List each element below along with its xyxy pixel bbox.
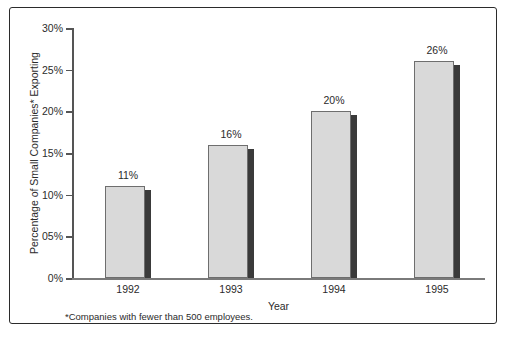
y-tick-label: 05% — [42, 230, 63, 242]
chart-footnote: *Companies with fewer than 500 employees… — [65, 311, 253, 322]
bar-group: 16% — [208, 28, 254, 278]
bar-shadow — [454, 65, 460, 278]
bar-shadow — [351, 115, 357, 278]
bar-shadow — [145, 190, 151, 278]
y-tick-mark — [66, 195, 72, 197]
bar-value-label: 26% — [414, 44, 460, 56]
bar-value-label: 16% — [208, 128, 254, 140]
y-tick-label: 10% — [42, 189, 63, 201]
y-tick-label: 25% — [42, 64, 63, 76]
bar — [208, 145, 248, 278]
y-tick-mark — [66, 111, 72, 113]
y-tick-label: 15% — [42, 147, 63, 159]
bar-value-label: 20% — [311, 94, 357, 106]
x-tick-label: 1993 — [208, 283, 254, 295]
y-tick-mark — [66, 153, 72, 155]
bar-value-label: 11% — [105, 169, 151, 181]
bar-group: 11% — [105, 28, 151, 278]
y-tick-label: 30% — [42, 22, 63, 34]
x-tick-label: 1994 — [311, 283, 357, 295]
y-tick-mark — [66, 236, 72, 238]
bar-group: 20% — [311, 28, 357, 278]
y-tick-mark — [66, 70, 72, 72]
bar-group: 26% — [414, 28, 460, 278]
chart-figure: 30%25%20%15%10%05%0% 11%199216%199320%19… — [9, 7, 497, 324]
bar — [105, 186, 145, 278]
x-axis-line — [72, 278, 485, 280]
y-tick-mark — [66, 28, 72, 30]
bar-shadow — [248, 149, 254, 278]
y-axis-line — [72, 28, 74, 278]
y-tick-label: 0% — [48, 272, 63, 284]
x-tick-label: 1992 — [105, 283, 151, 295]
y-axis-title: Percentage of Small Companies* Exporting — [28, 52, 40, 254]
bar — [414, 61, 454, 278]
x-tick-label: 1995 — [414, 283, 460, 295]
y-tick-label: 20% — [42, 105, 63, 117]
plot-area: 30%25%20%15%10%05%0% 11%199216%199320%19… — [72, 28, 485, 278]
bar — [311, 111, 351, 278]
y-tick-mark — [66, 278, 72, 280]
